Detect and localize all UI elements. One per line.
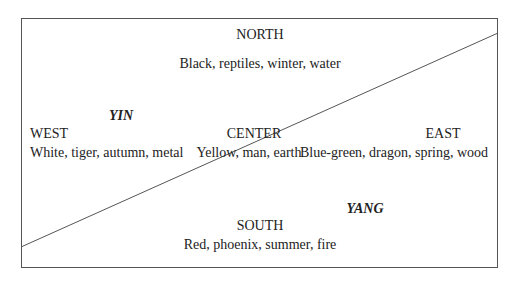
south-title: SOUTH [237,218,284,234]
yin-label: YIN [109,108,133,124]
east-attributes: Blue-green, dragon, spring, wood [300,145,488,161]
north-title: NORTH [236,27,283,43]
center-attributes: Yellow, man, earth [197,145,302,161]
south-attributes: Red, phoenix, summer, fire [184,237,337,253]
north-attributes: Black, reptiles, winter, water [179,56,340,72]
east-title: EAST [426,126,461,142]
center-title: CENTER [227,126,281,142]
yang-label: YANG [346,201,383,217]
west-attributes: White, tiger, autumn, metal [30,145,183,161]
west-title: WEST [30,126,68,142]
